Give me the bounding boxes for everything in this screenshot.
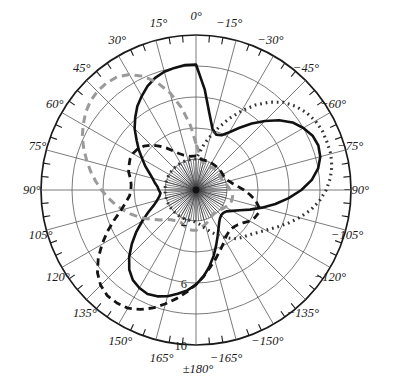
angle-label-165: 165° — [150, 351, 174, 365]
outer-tick-185 — [209, 337, 210, 344]
angle-label-minus45: −45° — [293, 61, 319, 75]
curve-solid-black-trilobe — [129, 64, 320, 296]
outer-tick-115 — [56, 253, 62, 256]
outer-tick-160 — [143, 329, 145, 336]
radial-label-10: 10 — [175, 339, 188, 353]
outer-tick-340 — [247, 44, 249, 51]
outer-tick-275 — [343, 176, 350, 177]
radial-label-6: 6 — [181, 277, 187, 291]
outer-tick-215 — [281, 311, 285, 317]
angle-label-minus165: −165° — [210, 351, 242, 365]
outer-tick-310 — [309, 90, 314, 94]
angle-label-minus150: −150° — [251, 334, 283, 348]
outer-tick-5 — [182, 36, 183, 43]
outer-tick-55 — [69, 101, 75, 105]
angle-label-30: 30° — [108, 33, 127, 47]
outer-tick-130 — [77, 285, 82, 289]
outer-tick-65 — [56, 124, 62, 127]
outer-tick-170 — [169, 336, 170, 343]
angle-label-minus90: −90° — [343, 183, 369, 197]
angle-label-135: 135° — [73, 306, 97, 320]
outer-tick-50 — [77, 90, 82, 94]
outer-tick-125 — [69, 275, 75, 279]
angle-label-15: 15° — [150, 16, 168, 30]
polar-origin-dot — [193, 187, 200, 194]
outer-tick-230 — [309, 285, 314, 289]
angle-label-minus105: −105° — [331, 228, 363, 242]
outer-tick-80 — [43, 163, 50, 164]
radial-label-2: 2 — [181, 215, 187, 229]
outer-tick-10 — [169, 37, 170, 44]
angle-label-60: 60° — [46, 97, 64, 111]
angle-label-180: ±180° — [183, 362, 214, 376]
angle-label-minus30: −30° — [258, 33, 284, 47]
polar-plot-figure: 0°15°30°45°60°75°90°105°120°135°150°165°… — [0, 0, 395, 381]
outer-tick-265 — [343, 203, 350, 204]
outer-tick-40 — [96, 71, 100, 76]
angle-label-45: 45° — [73, 61, 91, 75]
angle-label-minus120: −120° — [314, 270, 346, 284]
polar-grid — [41, 35, 351, 345]
outer-tick-335 — [259, 50, 262, 56]
angle-label-0: 0° — [190, 9, 201, 23]
outer-tick-145 — [107, 311, 111, 317]
outer-tick-20 — [143, 44, 145, 51]
polar-chart-canvas: 0°15°30°45°60°75°90°105°120°135°150°165°… — [0, 0, 395, 381]
outer-tick-100 — [43, 216, 50, 217]
angle-label-minus75: −75° — [337, 139, 363, 153]
angle-label-90: 90° — [23, 183, 41, 197]
outer-tick-95 — [42, 203, 49, 204]
outer-tick-295 — [330, 124, 336, 127]
outer-tick-245 — [330, 253, 336, 256]
outer-tick-155 — [130, 324, 133, 330]
curve-dotted-lobe-minus45 — [165, 102, 332, 239]
outer-tick-70 — [50, 137, 57, 139]
outer-tick-200 — [247, 329, 249, 336]
outer-tick-190 — [222, 336, 223, 343]
outer-tick-205 — [259, 324, 262, 330]
angle-label-minus60: −60° — [320, 97, 346, 111]
angle-label-105: 105° — [29, 228, 53, 242]
angle-label-75: 75° — [29, 139, 47, 153]
outer-tick-350 — [222, 37, 223, 44]
outer-tick-25 — [130, 50, 133, 56]
outer-tick-140 — [96, 303, 100, 308]
angle-label-minus135: −135° — [287, 306, 319, 320]
outer-tick-260 — [342, 216, 349, 217]
outer-tick-280 — [342, 163, 349, 164]
outer-tick-35 — [107, 63, 111, 69]
outer-tick-85 — [42, 176, 49, 177]
outer-tick-325 — [281, 63, 285, 69]
angle-label-minus15: −15° — [216, 16, 242, 30]
angle-label-120: 120° — [46, 270, 70, 284]
outer-tick-355 — [209, 36, 210, 43]
angle-label-150: 150° — [109, 334, 133, 348]
